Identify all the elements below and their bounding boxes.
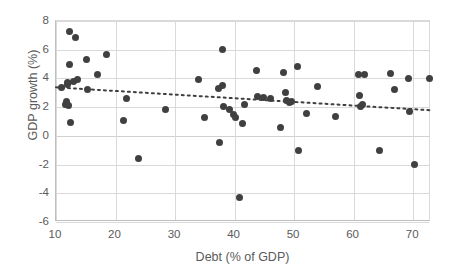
data-point xyxy=(405,75,412,82)
data-point xyxy=(260,94,267,101)
data-point xyxy=(66,28,73,35)
data-point xyxy=(295,147,302,154)
data-point xyxy=(67,119,74,126)
data-point xyxy=(74,76,81,83)
x-axis-title: Debt (% of GDP) xyxy=(55,250,430,264)
data-point xyxy=(282,89,289,96)
data-point xyxy=(361,71,368,78)
x-tick-label: 10 xyxy=(35,228,75,240)
gridline-x-70 xyxy=(413,21,414,220)
data-point xyxy=(280,69,287,76)
data-point xyxy=(83,56,90,63)
data-point xyxy=(232,114,239,121)
data-point xyxy=(65,102,72,109)
scatter-chart: 86420-2-4-6 10203040506070 GDP growth (%… xyxy=(0,0,451,276)
x-tick-label: 40 xyxy=(214,228,254,240)
data-point xyxy=(72,34,79,41)
x-tick-label: 60 xyxy=(333,228,373,240)
data-point xyxy=(314,83,321,90)
data-point xyxy=(123,95,130,102)
data-point xyxy=(94,71,101,78)
y-axis-title: GDP growth (%) xyxy=(26,5,40,185)
data-point xyxy=(219,82,226,89)
x-tick-label: 30 xyxy=(154,228,194,240)
data-point xyxy=(332,113,339,120)
data-point xyxy=(103,51,110,58)
plot-area xyxy=(55,20,430,221)
gridline-x-60 xyxy=(354,21,355,220)
data-point xyxy=(253,67,260,74)
gridline-y-6 xyxy=(56,50,429,51)
data-point xyxy=(84,86,91,93)
data-point xyxy=(120,117,127,124)
gridline-y--6 xyxy=(56,222,429,223)
data-point xyxy=(162,106,169,113)
gridline-y--4 xyxy=(56,193,429,194)
y-tick-label: -4 xyxy=(9,186,49,198)
data-point xyxy=(391,86,398,93)
data-point xyxy=(288,98,295,105)
data-point xyxy=(387,70,394,77)
data-point xyxy=(219,46,226,53)
data-point xyxy=(356,92,363,99)
x-tick-label: 50 xyxy=(273,228,313,240)
data-point xyxy=(267,95,274,102)
gridline-y-8 xyxy=(56,21,429,22)
data-point xyxy=(236,194,243,201)
x-tick-label: 20 xyxy=(95,228,135,240)
gridline-y-4 xyxy=(56,78,429,79)
data-point xyxy=(66,61,73,68)
data-point xyxy=(216,139,223,146)
y-tick-label: -6 xyxy=(9,215,49,227)
data-point xyxy=(294,63,301,70)
data-point xyxy=(239,120,246,127)
data-point xyxy=(277,124,284,131)
data-point xyxy=(376,147,383,154)
gridline-x-20 xyxy=(116,21,117,220)
x-tick-label: 70 xyxy=(392,228,432,240)
data-point xyxy=(135,155,142,162)
data-point xyxy=(426,75,433,82)
data-point xyxy=(411,161,418,168)
data-point xyxy=(195,76,202,83)
data-point xyxy=(201,114,208,121)
data-point xyxy=(406,108,413,115)
gridline-x-10 xyxy=(56,21,57,220)
gridline-y-0 xyxy=(56,136,429,137)
gridline-x-30 xyxy=(175,21,176,220)
data-point xyxy=(303,110,310,117)
gridline-x-50 xyxy=(294,21,295,220)
gridline-y--2 xyxy=(56,165,429,166)
